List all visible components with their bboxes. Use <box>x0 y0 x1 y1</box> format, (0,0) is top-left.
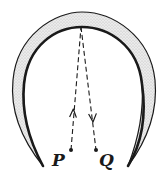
reflection-diagram: P Q <box>0 0 167 179</box>
reflected-ray <box>81 27 96 150</box>
point-p-dot <box>69 148 73 152</box>
point-p-label: P <box>51 150 66 170</box>
curved-mirror <box>13 12 156 166</box>
point-q-dot <box>94 148 98 152</box>
reflecting-surface <box>23 27 143 166</box>
arrow-up-icon <box>70 109 77 118</box>
incident-ray <box>71 27 81 150</box>
point-q-label: Q <box>99 150 114 170</box>
